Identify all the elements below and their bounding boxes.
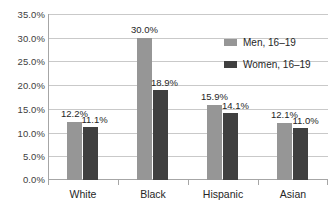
xcat-label-white: White [48, 188, 118, 200]
ytick-label-35: 35.0% [0, 9, 45, 20]
bar-label-hispanic-women: 14.1% [214, 100, 257, 111]
xtick-2 [188, 180, 189, 185]
xtick-4 [327, 180, 328, 185]
xtick-3 [258, 180, 259, 185]
bar-asian-men[interactable] [277, 123, 292, 180]
ytick-label-25: 25.0% [0, 56, 45, 67]
xcat-label-asian: Asian [258, 188, 328, 200]
ytick-label-20: 20.0% [0, 80, 45, 91]
ytick-label-0: 0.0% [0, 174, 45, 185]
bar-white-men[interactable] [67, 122, 82, 180]
bar-asian-women[interactable] [293, 128, 308, 180]
bar-white-women[interactable] [83, 127, 98, 180]
ytick-label-30: 30.0% [0, 33, 45, 44]
bar-label-black-men: 30.0% [123, 24, 166, 35]
bar-label-white-women: 11.1% [73, 114, 116, 125]
bar-label-asian-women: 11.0% [284, 115, 327, 126]
xcat-label-hispanic: Hispanic [188, 188, 258, 200]
bar-chart: 35.0% 30.0% 25.0% 20.0% 15.0% 10.0% 5.0%… [0, 0, 336, 219]
bar-black-women[interactable] [153, 90, 168, 180]
legend-item-women[interactable]: Women, 16–19 [224, 53, 332, 75]
bar-hispanic-women[interactable] [223, 113, 238, 180]
bar-black-men[interactable] [137, 38, 152, 180]
ytick-label-5: 5.0% [0, 151, 45, 162]
x-axis-ticks [48, 180, 328, 185]
legend-label-men: Men, 16–19 [243, 37, 296, 48]
legend-swatch-women-icon [224, 61, 237, 68]
xtick-0 [48, 180, 49, 185]
ytick-label-15: 15.0% [0, 104, 45, 115]
legend-item-men[interactable]: Men, 16–19 [224, 31, 332, 53]
legend: Men, 16–19 Women, 16–19 [224, 31, 332, 75]
legend-label-women: Women, 16–19 [243, 59, 311, 70]
bar-label-black-women: 18.9% [143, 77, 186, 88]
ytick-label-10: 10.0% [0, 128, 45, 139]
xcat-label-black: Black [118, 188, 188, 200]
xtick-1 [118, 180, 119, 185]
legend-swatch-men-icon [224, 39, 237, 46]
x-axis-labels: White Black Hispanic Asian [48, 188, 328, 206]
bar-hispanic-men[interactable] [207, 105, 222, 180]
